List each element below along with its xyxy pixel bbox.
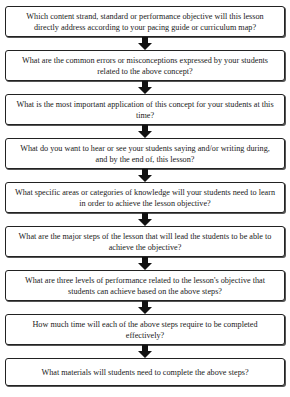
flowchart: Which content strand, standard or perfor… — [5, 6, 285, 386]
down-arrow-icon — [5, 81, 285, 94]
flow-step-6: What are the major steps of the lesson t… — [5, 226, 285, 257]
flow-step-3: What is the most important application o… — [5, 94, 285, 125]
step-text: What are three levels of performance rel… — [14, 275, 276, 297]
step-text: What do you want to hear or see your stu… — [14, 143, 276, 165]
cut-off-title — [60, 0, 230, 4]
flow-step-7: What are three levels of performance rel… — [5, 270, 285, 301]
down-arrow-icon — [5, 301, 285, 314]
down-arrow-icon — [5, 169, 285, 182]
flow-step-4: What do you want to hear or see your stu… — [5, 138, 285, 169]
flow-step-1: Which content strand, standard or perfor… — [5, 6, 285, 37]
flow-step-5: What specific areas or categories of kno… — [5, 182, 285, 213]
down-arrow-icon — [5, 345, 285, 358]
step-text: What are the common errors or misconcept… — [14, 55, 276, 77]
step-text: What is the most important application o… — [14, 99, 276, 121]
step-text: How much time will each of the above ste… — [14, 319, 276, 341]
flow-step-2: What are the common errors or misconcept… — [5, 50, 285, 81]
down-arrow-icon — [5, 257, 285, 270]
flow-step-9: What materials will students need to com… — [5, 358, 285, 386]
step-text: Which content strand, standard or perfor… — [14, 11, 276, 33]
step-text: What materials will students need to com… — [41, 367, 248, 378]
step-text: What specific areas or categories of kno… — [14, 187, 276, 209]
flow-step-8: How much time will each of the above ste… — [5, 314, 285, 345]
down-arrow-icon — [5, 213, 285, 226]
step-text: What are the major steps of the lesson t… — [14, 231, 276, 253]
down-arrow-icon — [5, 125, 285, 138]
down-arrow-icon — [5, 37, 285, 50]
